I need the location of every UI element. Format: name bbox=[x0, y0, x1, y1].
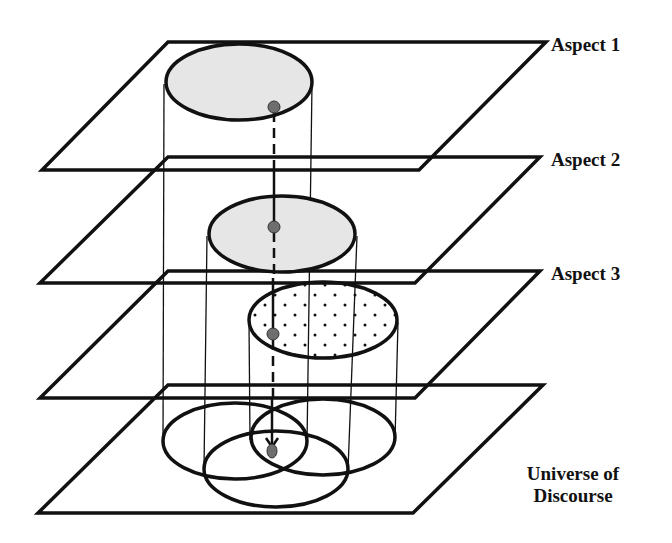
label-universe-line1: Universe of bbox=[508, 463, 638, 485]
point-aspect-3 bbox=[267, 328, 279, 340]
label-universe: Universe of Discourse bbox=[508, 463, 638, 507]
region-aspect-3 bbox=[249, 282, 397, 358]
label-aspect-1: Aspect 1 bbox=[551, 34, 620, 56]
point-universe bbox=[267, 444, 277, 458]
region-aspect-2 bbox=[209, 196, 355, 272]
label-universe-line2: Discourse bbox=[508, 485, 638, 507]
point-aspect-2 bbox=[268, 221, 280, 233]
point-aspect-1 bbox=[268, 101, 280, 113]
region-aspect-1 bbox=[166, 44, 312, 120]
label-aspect-2: Aspect 2 bbox=[551, 149, 620, 171]
label-aspect-3: Aspect 3 bbox=[551, 263, 620, 285]
